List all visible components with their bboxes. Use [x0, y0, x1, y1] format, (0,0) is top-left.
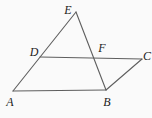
segment-CB	[106, 59, 142, 90]
segment-AB	[13, 90, 106, 91]
geometry-diagram: ABCDEF	[0, 0, 152, 118]
point-label-F: F	[97, 41, 106, 55]
point-label-A: A	[5, 95, 14, 109]
segment-DC	[40, 57, 142, 59]
point-label-B: B	[103, 95, 111, 109]
point-label-C: C	[143, 49, 152, 63]
point-label-E: E	[63, 3, 72, 17]
geometry-figure-container: ABCDEF	[0, 0, 152, 118]
segment-AE	[13, 12, 76, 91]
point-label-D: D	[29, 45, 39, 59]
